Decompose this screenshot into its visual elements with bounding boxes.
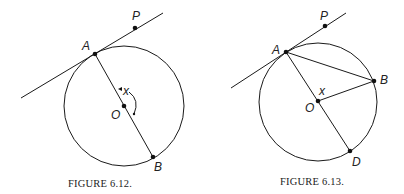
arrowhead-icon — [118, 87, 122, 91]
label-a: A — [271, 43, 280, 57]
figure-6-12: P A x O B FIGURE 6.12. — [21, 9, 184, 189]
caption: FIGURE 6.12. — [68, 178, 132, 189]
figures-canvas: P A x O B FIGURE 6.12. P A B x O D FIGUR… — [0, 0, 404, 194]
label-p: P — [132, 9, 140, 23]
label-a: A — [81, 39, 90, 53]
label-o: O — [111, 108, 120, 122]
tangent-line — [21, 13, 163, 98]
label-b: B — [380, 73, 388, 87]
arc-end-dot — [133, 113, 135, 115]
radius-ob — [318, 81, 374, 101]
label-x: x — [122, 84, 130, 98]
chord-ab — [286, 52, 374, 81]
point-a — [93, 52, 98, 57]
point-o — [122, 104, 127, 109]
point-d — [348, 149, 353, 154]
label-o: O — [305, 101, 314, 115]
point-p — [323, 24, 328, 29]
caption: FIGURE 6.13. — [280, 176, 344, 187]
figure-6-13: P A B x O D FIGURE 6.13. — [231, 9, 388, 187]
point-p — [133, 26, 138, 31]
point-a — [284, 50, 289, 55]
point-b — [372, 79, 377, 84]
point-b — [151, 155, 156, 160]
tangent-line — [231, 13, 346, 88]
angle-arc — [129, 92, 136, 114]
label-x: x — [318, 84, 326, 98]
point-o — [316, 99, 321, 104]
label-d: D — [352, 155, 361, 169]
label-p: P — [320, 9, 328, 23]
label-b: B — [154, 160, 162, 174]
